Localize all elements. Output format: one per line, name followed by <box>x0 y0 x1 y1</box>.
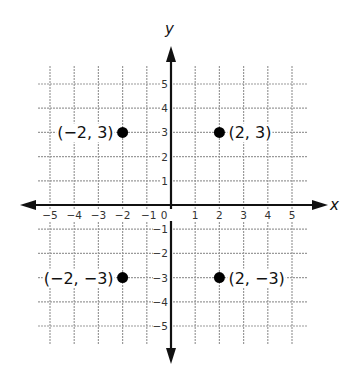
x-axis-label: x <box>329 196 339 214</box>
x-tick-label: 3 <box>240 209 247 221</box>
data-point-marker <box>117 272 128 283</box>
x-tick-label: −3 <box>91 209 106 221</box>
x-tick-label: 0 <box>161 209 168 221</box>
x-tick-label: −4 <box>66 209 82 221</box>
y-tick-label: −3 <box>153 272 168 284</box>
y-axis-down-arrow-icon <box>166 348 176 364</box>
point-label: (2, −3) <box>228 269 284 288</box>
x-tick-label: −5 <box>42 209 57 221</box>
y-tick-label: −2 <box>153 247 168 259</box>
y-tick-label: −5 <box>153 320 168 332</box>
x-tick-label: 5 <box>289 209 296 221</box>
point-label: (2, 3) <box>228 123 271 142</box>
x-tick-label: 4 <box>264 209 271 221</box>
y-axis-up-arrow-icon <box>166 46 176 62</box>
x-axis-left-arrow-icon <box>20 200 36 210</box>
y-axis-label: y <box>164 20 175 38</box>
y-tick-label: 5 <box>161 78 168 90</box>
x-axis-right-arrow-icon <box>312 200 328 210</box>
y-tick-label: −1 <box>153 223 168 235</box>
y-tick-label: 4 <box>161 102 168 114</box>
coordinate-plane: x y −5−4−3−2−101234554321−1−2−3−4−5 (−2,… <box>0 0 356 382</box>
point-label: (−2, 3) <box>57 123 113 142</box>
point-label: (−2, −3) <box>44 269 114 288</box>
x-tick-label: −1 <box>141 209 156 221</box>
y-tick-label: 3 <box>161 126 168 138</box>
data-point-marker <box>214 272 225 283</box>
axes: x y <box>20 20 339 364</box>
data-point-marker <box>117 127 128 138</box>
data-point-marker <box>214 127 225 138</box>
y-tick-label: 2 <box>161 151 168 163</box>
x-tick-label: 2 <box>216 209 223 221</box>
y-tick-label: −4 <box>153 296 169 308</box>
y-tick-label: 1 <box>161 175 168 187</box>
x-tick-label: −2 <box>115 209 130 221</box>
x-tick-label: 1 <box>192 209 199 221</box>
